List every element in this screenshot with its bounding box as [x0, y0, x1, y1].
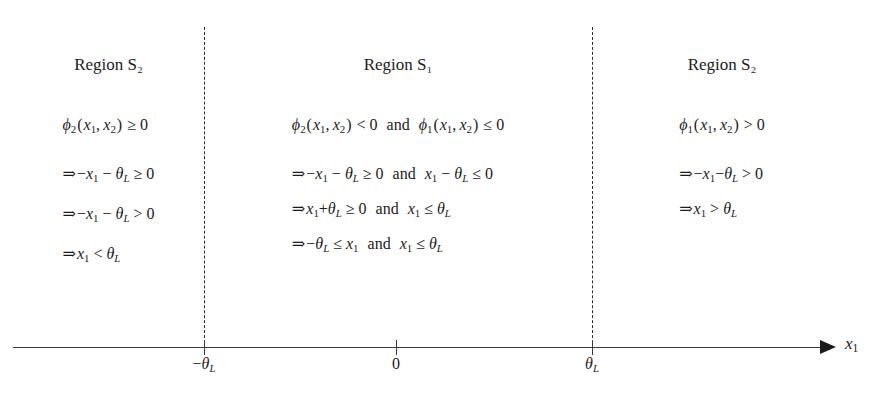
- region-left-row-1: ⇒−x1 − θL ≥ 0: [63, 166, 155, 184]
- region-right-row-0: ϕ1(x1, x2) > 0: [679, 117, 765, 135]
- x-axis-label: x1: [845, 334, 858, 355]
- tick-neg-theta: [204, 340, 205, 355]
- region-left-equations: ϕ2(x1, x2) ≥ 0 ⇒−x1 − θL ≥ 0 ⇒−x1 − θL >…: [63, 117, 155, 264]
- region-right-row-1: ⇒−x1−θL > 0: [679, 166, 765, 184]
- region-middle-row-2: ⇒x1+θL ≥ 0andx1 ≤ θL: [292, 201, 504, 219]
- region-middle-row-3: ⇒−θL ≤ x1andx1 ≤ θL: [292, 236, 504, 254]
- region-left-row-2: ⇒−x1 − θL > 0: [63, 206, 155, 224]
- tick-pos-theta: [592, 340, 593, 355]
- tick-label-zero: 0: [392, 355, 400, 373]
- region-left-row-3: ⇒x1 < θL: [63, 246, 155, 264]
- region-left-row-0: ϕ2(x1, x2) ≥ 0: [63, 117, 155, 135]
- tick-label-neg-theta: −θL: [193, 355, 216, 374]
- region-diagram: Region S₂ ϕ2(x1, x2) ≥ 0 ⇒−x1 − θL ≥ 0 ⇒…: [0, 0, 889, 400]
- region-s2-left: Region S₂ ϕ2(x1, x2) ≥ 0 ⇒−x1 − θL ≥ 0 ⇒…: [13, 55, 204, 264]
- region-middle-row-1: ⇒−x1 − θL ≥ 0andx1 − θL ≤ 0: [292, 166, 504, 184]
- tick-label-pos-theta: θL: [585, 355, 599, 374]
- tick-zero: [396, 340, 397, 355]
- region-right-row-2: ⇒x1 > θL: [679, 201, 765, 219]
- region-s2-right: Region S₂ ϕ1(x1, x2) > 0 ⇒−x1−θL > 0 ⇒x1…: [592, 55, 852, 219]
- x-axis-line: [13, 347, 825, 348]
- region-middle-equations: ϕ2(x1, x2) < 0andϕ1(x1, x2) ≤ 0 ⇒−x1 − θ…: [292, 117, 504, 254]
- x-axis-arrowhead-icon: [820, 340, 836, 354]
- region-right-equations: ϕ1(x1, x2) > 0 ⇒−x1−θL > 0 ⇒x1 > θL: [679, 117, 765, 219]
- region-middle-row-0: ϕ2(x1, x2) < 0andϕ1(x1, x2) ≤ 0: [292, 117, 504, 135]
- region-s1-middle: Region S₁ ϕ2(x1, x2) < 0andϕ1(x1, x2) ≤ …: [204, 55, 592, 254]
- region-right-title: Region S₂: [592, 55, 852, 75]
- region-middle-title: Region S₁: [204, 55, 592, 75]
- region-left-title: Region S₂: [13, 55, 204, 75]
